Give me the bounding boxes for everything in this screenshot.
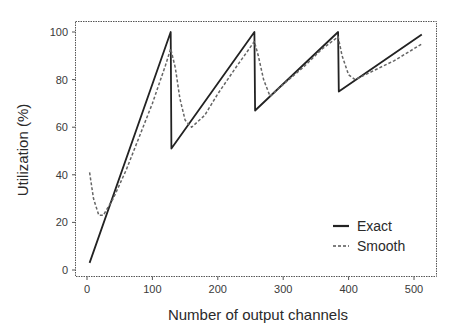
series-smooth-line [90,37,422,216]
y-axis-label: Utilization (%) [14,104,31,197]
y-tick-label: 0 [62,264,68,276]
utilization-chart: 020406080100 0100200300400500 Number of … [0,0,461,336]
x-tick-label: 0 [84,283,90,295]
legend: Exact Smooth [333,218,405,254]
x-tick-label: 200 [209,283,227,295]
y-tick-label: 100 [50,26,68,38]
y-axis-ticks: 020406080100 [50,26,76,276]
x-axis-label: Number of output channels [168,306,348,323]
x-axis-ticks: 0100200300400500 [84,277,423,296]
y-tick-label: 80 [56,74,68,86]
x-tick-label: 500 [405,283,423,295]
x-tick-label: 100 [143,283,161,295]
legend-smooth-label: Smooth [357,238,405,254]
x-tick-label: 400 [339,283,357,295]
legend-exact-label: Exact [357,218,392,234]
y-tick-label: 20 [56,216,68,228]
y-tick-label: 60 [56,121,68,133]
y-tick-label: 40 [56,169,68,181]
x-tick-label: 300 [274,283,292,295]
